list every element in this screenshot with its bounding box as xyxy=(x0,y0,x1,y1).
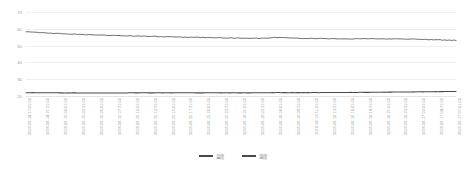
x-tick-label: 2018-06-15 05:01:00 xyxy=(99,98,104,135)
y-tick-label: 50 xyxy=(17,43,22,48)
x-tick-label: 2018-06-15 07:31:00 xyxy=(117,98,122,135)
x-tick-label: 2018-06-16 13:31:00 xyxy=(332,98,337,135)
x-tick-label: 2018-06-17 02:01:00 xyxy=(421,98,426,135)
y-tick-label: 20 xyxy=(17,94,22,99)
x-tick-label: 2018-06-15 00:01:00 xyxy=(63,98,68,135)
series-line xyxy=(26,32,456,41)
x-tick-label: 2018-06-16 18:31:00 xyxy=(368,98,373,135)
y-tick-label: 40 xyxy=(17,60,22,65)
x-tick-label: 2018-06-15 15:01:00 xyxy=(171,98,176,135)
x-axis-line xyxy=(26,96,456,97)
y-tick-label: 60 xyxy=(17,26,22,31)
x-tick-label: 2018-06-15 10:01:00 xyxy=(135,98,140,135)
x-tick-label: 2018-06-16 01:01:00 xyxy=(242,98,247,135)
x-tick-label: 2018-06-14 17:01:00 xyxy=(27,98,32,135)
line-chart: 706050403020 2018-06-14 17:01:002018-06-… xyxy=(0,0,466,171)
chart-legend: 温度湿度 xyxy=(0,153,466,159)
x-tick-label: 2018-06-16 08:31:00 xyxy=(296,98,301,135)
x-tick-label: 2018-06-15 17:31:00 xyxy=(188,98,193,135)
x-tick-label: 2018-06-17 04:31:00 xyxy=(439,98,444,135)
plot-area: 706050403020 xyxy=(26,12,456,96)
legend-item[interactable]: 温度 xyxy=(199,153,224,159)
legend-swatch-icon xyxy=(199,155,213,156)
x-tick-label: 2018-06-14 21:31:00 xyxy=(45,98,50,135)
legend-label: 温度 xyxy=(216,153,224,159)
x-tick-label: 2018-06-16 03:31:00 xyxy=(260,98,265,135)
x-tick-label: 2018-06-16 11:01:00 xyxy=(314,98,319,135)
x-tick-label: 2018-06-16 21:01:00 xyxy=(386,98,391,135)
legend-swatch-icon xyxy=(242,155,256,156)
y-tick-label: 70 xyxy=(17,10,22,15)
x-tick-label: 2018-06-15 20:01:00 xyxy=(206,98,211,135)
x-tick-label: 2018-06-15 12:31:00 xyxy=(153,98,158,135)
x-tick-label: 2018-06-17 07:01:00 xyxy=(457,98,462,135)
x-tick-label: 2018-06-15 22:31:00 xyxy=(224,98,229,135)
x-tick-label: 2018-06-16 16:01:00 xyxy=(350,98,355,135)
legend-label: 湿度 xyxy=(259,153,267,159)
legend-item[interactable]: 湿度 xyxy=(242,153,267,159)
series-lines xyxy=(26,12,456,96)
y-tick-label: 30 xyxy=(17,77,22,82)
x-axis-tick-labels: 2018-06-14 17:01:002018-06-14 21:31:0020… xyxy=(26,98,456,150)
x-tick-label: 2018-06-16 23:31:00 xyxy=(403,98,408,135)
x-tick-label: 2018-06-15 02:31:00 xyxy=(81,98,86,135)
x-tick-label: 2018-06-16 06:01:00 xyxy=(278,98,283,135)
series-line xyxy=(26,91,456,93)
